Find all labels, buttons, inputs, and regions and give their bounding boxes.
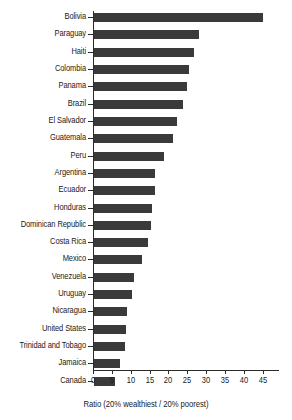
category-label: Trinidad and Tobago [9, 339, 86, 353]
bar-row: Panama [0, 82, 292, 91]
bar [94, 307, 127, 316]
y-axis-tick [88, 208, 93, 209]
bar-row: Colombia [0, 65, 292, 74]
category-label: Brazil [9, 97, 86, 111]
x-tick-label: 15 [140, 376, 158, 386]
y-axis-tick [88, 173, 93, 174]
category-label: Nicaragua [9, 304, 86, 318]
y-axis-tick [88, 86, 93, 87]
y-axis-tick [88, 277, 93, 278]
bar [94, 169, 155, 178]
bar-row: Nicaragua [0, 307, 292, 316]
bar-row: Jamaica [0, 359, 292, 368]
x-tick-label: 10 [121, 376, 139, 386]
x-tick-mark [131, 370, 132, 374]
bar-row: Haiti [0, 48, 292, 57]
bar [94, 238, 148, 247]
y-axis-tick [88, 259, 93, 260]
category-label: Haiti [9, 45, 86, 59]
bar [94, 65, 189, 74]
category-label: Dominican Republic [9, 218, 86, 232]
bar-row: Ecuador [0, 186, 292, 195]
category-label: El Salvador [9, 114, 86, 128]
bar-row: Venezuela [0, 273, 292, 282]
bar-row: Bolivia [0, 13, 292, 22]
bar [94, 30, 199, 39]
category-label: Costa Rica [9, 235, 86, 249]
y-axis-tick [88, 52, 93, 53]
bar [94, 359, 120, 368]
bar [94, 48, 194, 57]
bar-row: Argentina [0, 169, 292, 178]
y-axis-tick [88, 17, 93, 18]
bar-row: Dominican Republic [0, 221, 292, 230]
bar [94, 152, 164, 161]
y-axis-tick [88, 34, 93, 35]
y-axis-tick [88, 363, 93, 364]
bar [94, 82, 187, 91]
x-tick-mark [206, 370, 207, 374]
category-label: Jamaica [9, 356, 86, 370]
bar-row: El Salvador [0, 117, 292, 126]
category-label: Peru [9, 149, 86, 163]
x-axis-title: Ratio (20% wealthiest / 20% poorest) [9, 399, 283, 410]
x-tick-label: 5 [103, 376, 121, 386]
bar-row: Peru [0, 152, 292, 161]
category-label: Honduras [9, 201, 86, 215]
category-label: Bolivia [9, 10, 86, 24]
category-label: Uruguay [9, 287, 86, 301]
bar-row: Mexico [0, 255, 292, 264]
x-tick-label: 0 [84, 376, 102, 386]
bar-row: Guatemala [0, 134, 292, 143]
y-axis-tick [88, 121, 93, 122]
x-tick-mark [187, 370, 188, 374]
bar [94, 221, 151, 230]
category-label: Venezuela [9, 270, 86, 284]
x-tick-mark [150, 370, 151, 374]
category-label: Mexico [9, 252, 86, 266]
y-axis-tick [88, 225, 93, 226]
x-tick-mark [112, 370, 113, 374]
category-label: Argentina [9, 166, 86, 180]
bar-row: Brazil [0, 100, 292, 109]
x-tick-label: 35 [216, 376, 234, 386]
y-axis-tick [88, 104, 93, 105]
category-label: United States [9, 322, 86, 336]
bar [94, 117, 177, 126]
bar-row: Uruguay [0, 290, 292, 299]
x-tick-mark [263, 370, 264, 374]
x-axis-ticks: 051015202530354045 [0, 370, 292, 390]
x-tick-mark [168, 370, 169, 374]
plot-area: BoliviaParaguayHaitiColombiaPanamaBrazil… [0, 0, 292, 420]
y-axis-tick [88, 69, 93, 70]
y-axis-tick [88, 329, 93, 330]
x-tick-label: 45 [253, 376, 271, 386]
x-tick-label: 25 [178, 376, 196, 386]
category-label: Colombia [9, 62, 86, 76]
bar [94, 255, 142, 264]
x-tick-mark [225, 370, 226, 374]
bar-row: Trinidad and Tobago [0, 342, 292, 351]
y-axis-tick [88, 311, 93, 312]
bar [94, 273, 134, 282]
x-tick-label: 40 [235, 376, 253, 386]
bar [94, 13, 263, 22]
bar [94, 325, 126, 334]
y-axis-tick [88, 156, 93, 157]
y-axis-tick [88, 346, 93, 347]
bar [94, 204, 152, 213]
y-axis-tick [88, 242, 93, 243]
x-tick-mark [244, 370, 245, 374]
category-label: Guatemala [9, 131, 86, 145]
category-label: Panama [9, 79, 86, 93]
x-tick-mark [93, 370, 94, 374]
y-axis-tick [88, 138, 93, 139]
category-label: Paraguay [9, 27, 86, 41]
bar [94, 186, 155, 195]
bar [94, 134, 173, 143]
bar-chart: BoliviaParaguayHaitiColombiaPanamaBrazil… [0, 0, 292, 420]
bar-row: Costa Rica [0, 238, 292, 247]
bar [94, 100, 183, 109]
y-axis-tick [88, 294, 93, 295]
bar-row: Paraguay [0, 30, 292, 39]
